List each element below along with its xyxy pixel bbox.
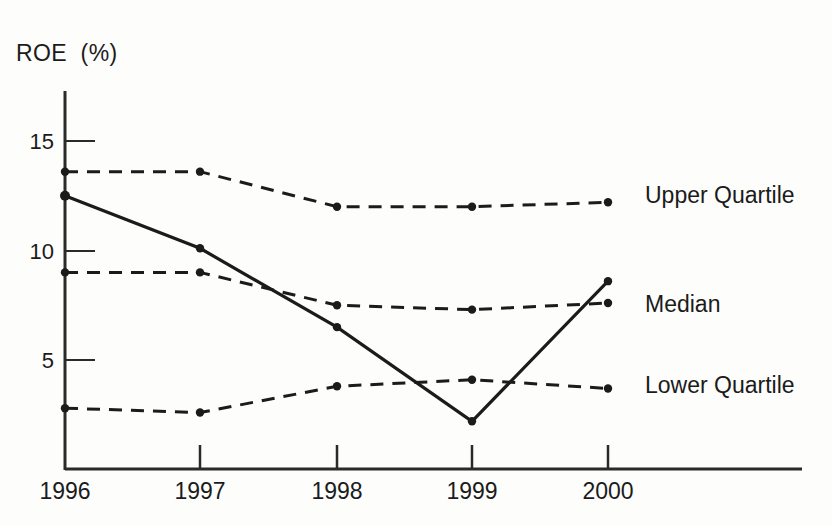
- data-point: [61, 167, 69, 175]
- data-point: [468, 203, 476, 211]
- series-label-upper-quartile: Upper Quartile: [645, 182, 795, 209]
- data-point: [333, 323, 341, 331]
- x-tick-label-2000: 2000: [553, 478, 663, 505]
- data-point: [468, 376, 476, 384]
- data-point: [61, 404, 69, 412]
- plot-area: [0, 0, 832, 525]
- data-point: [61, 268, 69, 276]
- series-layer: [60, 167, 612, 425]
- series-line-upper-quartile: [65, 172, 608, 207]
- y-tick-label-5: 5: [8, 348, 54, 374]
- y-tick-label-15: 15: [8, 129, 54, 155]
- data-point: [196, 268, 204, 276]
- series-label-lower-quartile: Lower Quartile: [645, 372, 795, 399]
- data-point: [196, 244, 204, 252]
- data-point: [604, 299, 612, 307]
- data-point: [604, 198, 612, 206]
- data-point: [333, 203, 341, 211]
- chart-container: ROE (%) 15 10 5 1996 1997 1998 1999 2000…: [0, 0, 832, 525]
- data-point: [196, 408, 204, 416]
- data-point: [604, 277, 612, 285]
- x-tick-label-1997: 1997: [145, 478, 255, 505]
- data-point: [468, 305, 476, 313]
- data-point: [604, 384, 612, 392]
- data-point: [333, 301, 341, 309]
- data-point: [60, 191, 70, 201]
- x-tick-label-1998: 1998: [282, 478, 392, 505]
- x-tick-label-1999: 1999: [417, 478, 527, 505]
- data-point: [196, 167, 204, 175]
- y-tick-label-10: 10: [8, 239, 54, 265]
- x-tick-label-1996: 1996: [10, 478, 120, 505]
- data-point: [333, 382, 341, 390]
- series-label-median: Median: [645, 291, 720, 318]
- data-point: [468, 417, 476, 425]
